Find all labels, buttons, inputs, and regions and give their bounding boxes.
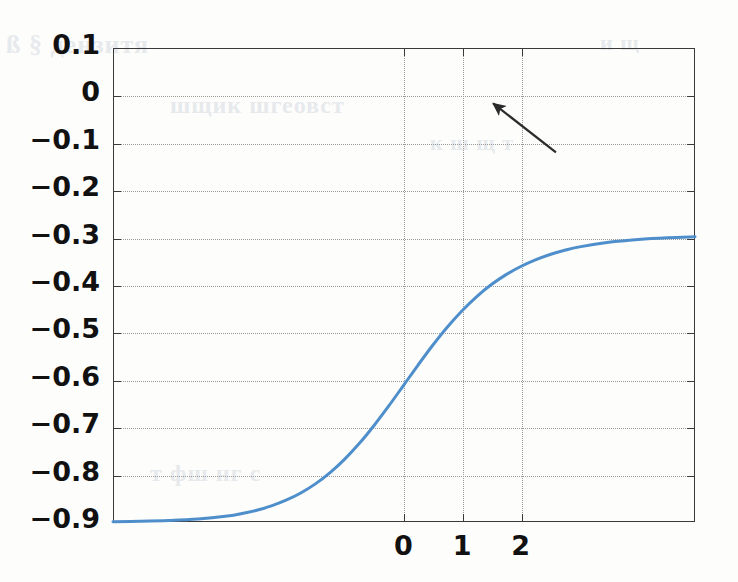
y-tick-label: −0.8 — [0, 456, 100, 487]
y-axis-tick — [114, 286, 121, 287]
x-tick-label: 0 — [383, 530, 423, 561]
y-axis-tick — [114, 144, 121, 145]
y-axis-tick-right — [687, 191, 694, 192]
gridline-vertical — [522, 49, 523, 521]
y-axis-tick-right — [687, 144, 694, 145]
y-axis-tick — [114, 428, 121, 429]
x-axis-tick — [522, 514, 523, 521]
y-axis-tick — [114, 476, 121, 477]
x-axis-tick-top — [463, 49, 464, 56]
y-tick-label: −0.7 — [0, 408, 100, 439]
plot-area — [113, 48, 695, 522]
y-axis-tick — [114, 96, 121, 97]
y-axis-tick-right — [687, 286, 694, 287]
y-axis-tick — [114, 239, 121, 240]
y-tick-label: −0.9 — [0, 503, 100, 534]
y-axis-tick — [114, 381, 121, 382]
y-tick-label: 0.1 — [0, 29, 100, 60]
y-axis-tick — [114, 191, 121, 192]
y-tick-label: −0.4 — [0, 266, 100, 297]
x-axis-tick-top — [404, 49, 405, 56]
y-axis-tick-right — [687, 239, 694, 240]
gridline-vertical — [404, 49, 405, 521]
y-tick-label: 0 — [0, 76, 100, 107]
gridline-vertical — [463, 49, 464, 521]
x-axis-tick-top — [522, 49, 523, 56]
y-axis-tick-right — [687, 428, 694, 429]
y-tick-label: −0.1 — [0, 124, 100, 155]
y-tick-label: −0.3 — [0, 219, 100, 250]
y-axis-tick-right — [687, 96, 694, 97]
x-axis-tick — [404, 514, 405, 521]
x-tick-label: 1 — [442, 530, 482, 561]
y-tick-label: −0.2 — [0, 171, 100, 202]
x-tick-label: 2 — [501, 530, 541, 561]
y-axis-tick-right — [687, 381, 694, 382]
y-tick-label: −0.6 — [0, 361, 100, 392]
x-axis-tick — [463, 514, 464, 521]
y-axis-tick-right — [687, 476, 694, 477]
y-axis-tick-right — [687, 333, 694, 334]
figure-canvas: ß § дензитя шщик шгеовст т фш нг с к ш щ… — [0, 0, 738, 582]
y-axis-tick — [114, 333, 121, 334]
y-tick-label: −0.5 — [0, 313, 100, 344]
